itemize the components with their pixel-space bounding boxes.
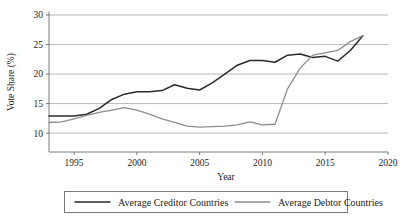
x-axis-title: Year — [217, 172, 235, 182]
x-tick-label-2005: 2005 — [190, 158, 209, 168]
x-tick-label-2000: 2000 — [127, 158, 146, 168]
y-tick-label-30: 30 — [34, 10, 44, 20]
line-chart: 1015202530 199520002005201020152020 Vote… — [0, 0, 410, 222]
legend-label-debtor: Average Debtor Countries — [278, 197, 383, 208]
x-axis-tick-labels: 199520002005201020152020 — [65, 158, 398, 168]
tick-marks — [46, 15, 388, 155]
y-tick-label-25: 25 — [34, 40, 44, 50]
data-series-group — [49, 36, 363, 128]
gridlines — [49, 15, 388, 133]
y-tick-label-15: 15 — [34, 99, 44, 109]
chart-legend: Average Creditor Countries Average Debto… — [65, 192, 383, 213]
series-line-debtor — [49, 36, 363, 128]
x-tick-label-1995: 1995 — [65, 158, 84, 168]
series-line-creditor — [49, 36, 363, 116]
y-tick-label-10: 10 — [34, 129, 44, 139]
x-tick-label-2015: 2015 — [316, 158, 335, 168]
y-axis-title: Vote Share (%) — [6, 53, 17, 111]
x-tick-label-2010: 2010 — [253, 158, 272, 168]
legend-label-creditor: Average Creditor Countries — [118, 197, 228, 208]
x-tick-label-2020: 2020 — [379, 158, 398, 168]
axes — [49, 12, 388, 153]
y-axis-tick-labels: 1015202530 — [34, 10, 44, 138]
chart-figure: 1015202530 199520002005201020152020 Vote… — [0, 0, 410, 222]
y-tick-label-20: 20 — [34, 69, 44, 79]
